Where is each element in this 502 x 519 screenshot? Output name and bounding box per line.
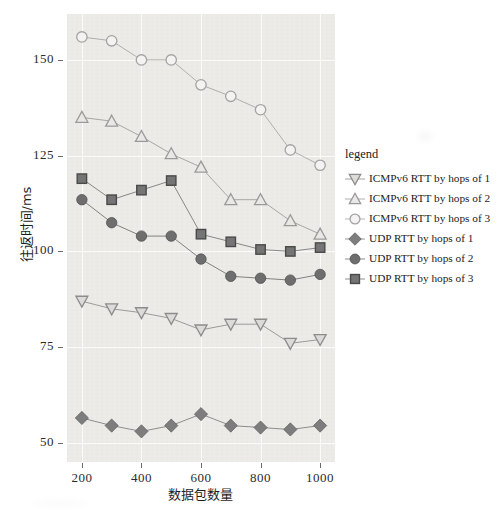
data-point bbox=[284, 338, 296, 349]
y-tick-mark bbox=[58, 60, 63, 61]
y-tick-label: 150 bbox=[14, 51, 54, 67]
data-point bbox=[256, 245, 265, 254]
y-tick-label: 125 bbox=[14, 147, 54, 163]
circle-open-icon bbox=[344, 210, 366, 228]
diamond-icon bbox=[344, 230, 366, 248]
data-point bbox=[77, 32, 87, 42]
legend-item-label: ICMPv6 RTT by hops of 3 bbox=[369, 213, 490, 224]
legend-item-4[interactable]: UDP RTT by hops of 1 bbox=[344, 229, 502, 249]
data-point bbox=[226, 237, 235, 246]
data-point bbox=[224, 419, 237, 432]
series-6 bbox=[77, 174, 325, 256]
data-point bbox=[136, 55, 146, 65]
series-line bbox=[82, 179, 320, 252]
legend-item-6[interactable]: UDP RTT by hops of 3 bbox=[344, 269, 502, 289]
data-point bbox=[315, 243, 324, 252]
series-line bbox=[82, 37, 320, 165]
series-4 bbox=[75, 408, 326, 438]
x-tick-label: 200 bbox=[59, 470, 105, 486]
triangle-down-icon bbox=[344, 170, 366, 188]
data-point bbox=[255, 105, 265, 115]
x-tick-mark bbox=[82, 463, 83, 468]
data-point bbox=[166, 231, 176, 241]
data-point bbox=[76, 296, 88, 307]
series-line bbox=[82, 117, 320, 234]
legend-item-label: UDP RTT by hops of 1 bbox=[369, 233, 473, 244]
data-point bbox=[77, 195, 87, 205]
legend-item-label: UDP RTT by hops of 2 bbox=[369, 253, 473, 264]
data-point bbox=[195, 161, 207, 172]
data-point bbox=[77, 174, 86, 183]
legend-item-1[interactable]: ICMPv6 RTT by hops of 1 bbox=[344, 169, 502, 189]
legend-items: ICMPv6 RTT by hops of 1ICMPv6 RTT by hop… bbox=[344, 169, 502, 289]
legend-title: legend bbox=[344, 147, 502, 162]
x-tick-mark bbox=[261, 463, 262, 468]
data-point bbox=[255, 273, 265, 283]
data-point bbox=[286, 247, 295, 256]
data-point bbox=[285, 145, 295, 155]
data-point bbox=[135, 425, 148, 438]
legend-item-label: ICMPv6 RTT by hops of 2 bbox=[369, 193, 490, 204]
data-point bbox=[165, 419, 178, 432]
data-point bbox=[314, 228, 326, 239]
data-point bbox=[75, 411, 88, 424]
x-tick-label: 1000 bbox=[297, 470, 343, 486]
data-point bbox=[167, 176, 176, 185]
data-point bbox=[165, 313, 177, 324]
y-tick-mark bbox=[58, 251, 63, 252]
x-tick-mark bbox=[141, 463, 142, 468]
data-point bbox=[165, 148, 177, 159]
y-tick-mark bbox=[58, 347, 63, 348]
x-tick-mark bbox=[320, 463, 321, 468]
series-3 bbox=[77, 32, 326, 171]
x-axis-title: 数据包数量 bbox=[120, 484, 280, 503]
y-tick-mark bbox=[58, 156, 63, 157]
data-point bbox=[196, 80, 206, 90]
data-point bbox=[105, 419, 118, 432]
data-point bbox=[314, 419, 327, 432]
data-point bbox=[137, 185, 146, 194]
data-point bbox=[76, 111, 88, 122]
legend-item-5[interactable]: UDP RTT by hops of 2 bbox=[344, 249, 502, 269]
data-point bbox=[315, 160, 325, 170]
legend-item-label: ICMPv6 RTT by hops of 1 bbox=[369, 173, 490, 184]
x-tick-mark bbox=[201, 463, 202, 468]
y-axis-title: 往返时间/ms bbox=[16, 170, 35, 280]
data-point bbox=[285, 275, 295, 285]
y-tick-label: 75 bbox=[14, 338, 54, 354]
legend-item-label: UDP RTT by hops of 3 bbox=[369, 273, 473, 284]
y-tick-mark bbox=[58, 443, 63, 444]
legend-item-2[interactable]: ICMPv6 RTT by hops of 2 bbox=[344, 189, 502, 209]
data-point bbox=[226, 91, 236, 101]
legend: legend ICMPv6 RTT by hops of 1ICMPv6 RTT… bbox=[344, 147, 502, 289]
data-point bbox=[255, 194, 267, 205]
data-point bbox=[107, 195, 116, 204]
data-point bbox=[226, 271, 236, 281]
data-point bbox=[166, 55, 176, 65]
legend-item-3[interactable]: ICMPv6 RTT by hops of 3 bbox=[344, 209, 502, 229]
data-point bbox=[195, 325, 207, 336]
series-5 bbox=[77, 195, 326, 286]
data-point bbox=[315, 269, 325, 279]
circle-filled-icon bbox=[344, 250, 366, 268]
data-point bbox=[254, 421, 267, 434]
data-point bbox=[106, 217, 116, 227]
y-tick-label: 50 bbox=[14, 434, 54, 450]
data-point bbox=[194, 408, 207, 421]
data-point bbox=[284, 423, 297, 436]
data-point bbox=[196, 254, 206, 264]
data-point bbox=[135, 131, 147, 142]
square-icon bbox=[344, 270, 366, 288]
data-point bbox=[106, 36, 116, 46]
data-point bbox=[284, 215, 296, 226]
triangle-up-icon bbox=[344, 190, 366, 208]
data-point bbox=[136, 231, 146, 241]
series-line bbox=[82, 200, 320, 280]
chart-root: 15012510075502004006008001000 往返时间/ms 数据… bbox=[0, 0, 502, 519]
data-point bbox=[196, 229, 205, 238]
series-1 bbox=[76, 296, 326, 349]
